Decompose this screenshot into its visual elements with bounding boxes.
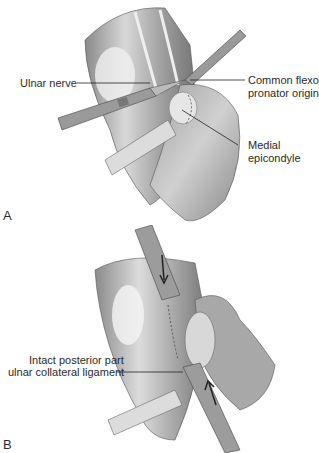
elbow-surgery-illustration-b: [0, 225, 319, 453]
label-intact-posterior: Intact posterior part: [29, 354, 124, 366]
label-common-flexor: Common flexor: [248, 74, 319, 86]
label-epicondyle: epicondyle: [248, 152, 301, 164]
panel-b: Intact posterior part ulnar collateral l…: [0, 225, 319, 453]
label-ulnar-nerve: Ulnar nerve: [20, 77, 77, 89]
panel-a: Ulnar nerve Common flexor pronator origi…: [0, 0, 319, 225]
label-pronator-origin: pronator origin: [248, 87, 319, 99]
panel-letter-a: A: [3, 208, 12, 223]
panel-letter-b: B: [3, 437, 12, 452]
label-medial: Medial: [248, 139, 280, 151]
elbow-surgery-illustration-a: [0, 0, 319, 225]
label-ulnar-collateral-ligament: ulnar collateral ligament: [8, 366, 124, 378]
